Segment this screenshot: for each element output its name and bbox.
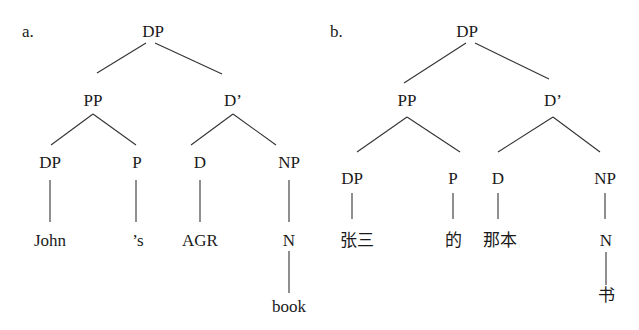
- node-d: D: [194, 153, 206, 172]
- edge: [553, 117, 600, 152]
- node-np: NP: [278, 153, 300, 172]
- node-possessor-dp: DP: [341, 169, 363, 188]
- edge: [93, 114, 136, 145]
- node-d-bar: D’: [224, 91, 242, 110]
- tree-label: a.: [22, 22, 34, 41]
- node-d: D: [492, 169, 504, 188]
- edge: [357, 117, 407, 152]
- edge: [155, 43, 222, 74]
- edge: [475, 43, 549, 79]
- node-n: N: [600, 231, 612, 250]
- edge: [51, 114, 93, 145]
- node-d-bar: D’: [544, 91, 562, 110]
- syntax-tree-diagram: a. DP PP D’ DP P D NP John ’s AGR N book…: [0, 0, 639, 330]
- node-possessor-dp: DP: [39, 153, 61, 172]
- edge: [97, 43, 146, 73]
- edge: [407, 117, 460, 152]
- edge: [404, 43, 466, 83]
- leaf-n: 书: [598, 285, 615, 305]
- leaf-p: 的: [445, 230, 462, 250]
- node-root-dp: DP: [456, 22, 478, 41]
- node-p: P: [448, 169, 457, 188]
- leaf-p: ’s: [132, 231, 143, 250]
- leaf-d: AGR: [182, 231, 219, 250]
- edge: [191, 114, 233, 145]
- node-n: N: [283, 231, 295, 250]
- tree-a: a. DP PP D’ DP P D NP John ’s AGR N book: [22, 22, 307, 316]
- tree-b: b. DP PP D’ DP P D NP 张三 的 那本 N 书: [330, 22, 616, 305]
- node-np: NP: [594, 169, 616, 188]
- node-root-dp: DP: [142, 22, 164, 41]
- node-p: P: [132, 153, 141, 172]
- leaf-n: book: [272, 297, 307, 316]
- edge: [233, 114, 276, 145]
- leaf-possessor: 张三: [340, 230, 374, 250]
- leaf-d: 那本: [483, 230, 517, 250]
- node-pp: PP: [84, 91, 103, 110]
- leaf-possessor: John: [34, 231, 67, 250]
- edge: [498, 117, 553, 152]
- node-pp: PP: [398, 91, 417, 110]
- tree-label: b.: [330, 22, 343, 41]
